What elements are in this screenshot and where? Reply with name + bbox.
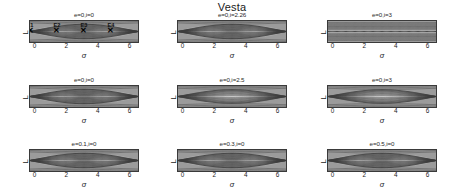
- panel-title: e=0,i=3: [327, 11, 437, 18]
- equilibrium-marker: ✕: [29, 27, 34, 35]
- x-axis-label: σ: [29, 116, 139, 125]
- panel-title: e=0,i=2.26: [177, 11, 287, 18]
- equilibrium-marker: ✕: [53, 27, 60, 35]
- panel-p6: e=0,i=3L99.398.60246σ: [327, 76, 437, 120]
- x-tick: 6: [426, 171, 430, 178]
- x-axis-ticks: 0246: [177, 171, 287, 180]
- x-tick: 0: [33, 107, 37, 114]
- x-axis-label: σ: [29, 180, 139, 189]
- x-tick: 4: [394, 171, 398, 178]
- x-tick: 6: [276, 42, 280, 49]
- x-axis-ticks: 0246: [327, 42, 437, 51]
- x-tick: 0: [331, 107, 335, 114]
- equilibrium-marker: ✕: [107, 27, 114, 35]
- plot-area: 99.298.6: [327, 20, 437, 43]
- x-axis-ticks: 0246: [29, 42, 139, 51]
- x-axis-ticks: 0246: [29, 107, 139, 116]
- x-tick: 4: [244, 171, 248, 178]
- x-tick: 4: [394, 107, 398, 114]
- x-tick: 4: [96, 107, 100, 114]
- plot-area: 9996: [177, 20, 287, 43]
- panel-title: e=0,i=0: [29, 76, 139, 83]
- plot-area: 10592: [29, 85, 139, 108]
- x-axis-label: σ: [327, 51, 437, 60]
- plot-area: 99.398.6: [327, 85, 437, 108]
- x-axis-ticks: 0246: [29, 171, 139, 180]
- x-tick: 4: [96, 42, 100, 49]
- x-tick: 4: [244, 42, 248, 49]
- panel-p9: e=0.5,i=0L105920246σ: [327, 140, 437, 184]
- x-tick: 6: [128, 42, 132, 49]
- x-tick: 0: [181, 42, 185, 49]
- panel-title: e=0,i=0: [29, 11, 139, 18]
- panel-p2: e=0,i=2.26L99960246σ: [177, 11, 287, 55]
- x-tick: 2: [64, 107, 68, 114]
- plot-area: 10592: [327, 149, 437, 172]
- plot-area: 99.596.5: [177, 85, 287, 108]
- x-tick: 2: [212, 42, 216, 49]
- x-tick: 2: [64, 171, 68, 178]
- x-axis-ticks: 0246: [177, 42, 287, 51]
- x-tick: 2: [212, 107, 216, 114]
- panel-p3: e=0,i=3L99.298.60246σ: [327, 11, 437, 55]
- x-tick: 6: [128, 107, 132, 114]
- x-tick: 0: [181, 171, 185, 178]
- x-tick: 6: [276, 171, 280, 178]
- x-axis-ticks: 0246: [327, 107, 437, 116]
- panel-p7: e=0.1,i=0L105920246σ: [29, 140, 139, 184]
- panel-title: e=0.3,i=0: [177, 140, 287, 147]
- panel-title: e=0.1,i=0: [29, 140, 139, 147]
- x-tick: 2: [362, 107, 366, 114]
- plot-area: 10592: [29, 149, 139, 172]
- x-axis-label: σ: [327, 116, 437, 125]
- plot-area: 10592: [177, 149, 287, 172]
- panel-p4: e=0,i=0L105920246σ: [29, 76, 139, 120]
- panel-p1: e=0,i=0LE1✕E2✕E3✕E4✕105920246σ: [29, 11, 139, 55]
- x-axis-label: σ: [177, 180, 287, 189]
- x-tick: 0: [181, 107, 185, 114]
- x-tick: 0: [331, 171, 335, 178]
- x-axis-label: σ: [177, 116, 287, 125]
- x-tick: 0: [331, 42, 335, 49]
- x-axis-ticks: 0246: [327, 171, 437, 180]
- panel-title: e=0,i=3: [327, 76, 437, 83]
- x-tick: 4: [394, 42, 398, 49]
- x-tick: 6: [426, 42, 430, 49]
- x-tick: 4: [244, 107, 248, 114]
- x-axis-ticks: 0246: [177, 107, 287, 116]
- equilibrium-marker: ✕: [80, 27, 87, 35]
- panel-title: e=0,i=2.5: [177, 76, 287, 83]
- x-tick: 2: [64, 42, 68, 49]
- x-tick: 0: [33, 171, 37, 178]
- x-tick: 4: [96, 171, 100, 178]
- x-tick: 6: [426, 107, 430, 114]
- plot-area: E1✕E2✕E3✕E4✕10592: [29, 20, 139, 43]
- x-tick: 2: [362, 42, 366, 49]
- x-tick: 6: [128, 171, 132, 178]
- x-axis-label: σ: [327, 180, 437, 189]
- x-tick: 0: [33, 42, 37, 49]
- panel-p5: e=0,i=2.5L99.596.50246σ: [177, 76, 287, 120]
- x-tick: 6: [276, 107, 280, 114]
- vesta-phase-space-figure: Vesta e=0,i=0LE1✕E2✕E3✕E4✕105920246σe=0,…: [0, 0, 464, 191]
- x-tick: 2: [362, 171, 366, 178]
- x-tick: 2: [212, 171, 216, 178]
- panel-title: e=0.5,i=0: [327, 140, 437, 147]
- panel-p8: e=0.3,i=0L105920246σ: [177, 140, 287, 184]
- x-axis-label: σ: [29, 51, 139, 60]
- x-axis-label: σ: [177, 51, 287, 60]
